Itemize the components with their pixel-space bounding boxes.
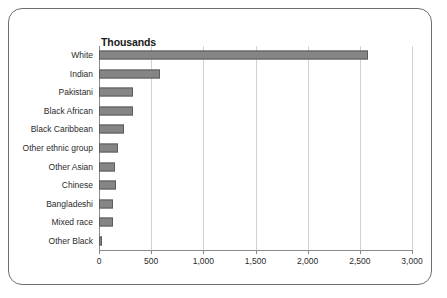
x-axis-tick-label: 0 xyxy=(97,256,102,266)
x-axis-tick-label: 3,000 xyxy=(401,256,422,266)
category-label: Chinese xyxy=(0,180,97,190)
bar[interactable] xyxy=(99,218,113,227)
bar[interactable] xyxy=(99,199,113,208)
bar[interactable] xyxy=(99,162,115,171)
x-axis-tick-label: 500 xyxy=(144,256,158,266)
category-label: Mixed race xyxy=(0,217,97,227)
x-axis-tick-label: 1,500 xyxy=(245,256,266,266)
x-axis-tick-label: 2,500 xyxy=(349,256,370,266)
category-label-row: Black African xyxy=(0,106,97,116)
category-label: Other Asian xyxy=(0,162,97,172)
category-label-row: Pakistani xyxy=(0,87,97,97)
bar[interactable] xyxy=(99,69,160,78)
category-label: Black African xyxy=(0,106,97,116)
category-label-row: Other ethnic group xyxy=(0,143,97,153)
category-label-row: Black Caribbean xyxy=(0,124,97,134)
category-label: Indian xyxy=(0,69,97,79)
bar[interactable] xyxy=(99,144,118,153)
category-label: Black Caribbean xyxy=(0,124,97,134)
category-label-row: Mixed race xyxy=(0,217,97,227)
x-axis-tick xyxy=(256,250,257,254)
gridline xyxy=(203,46,204,250)
category-label-row: Indian xyxy=(0,69,97,79)
category-label: White xyxy=(0,50,97,60)
category-label: Other ethnic group xyxy=(0,143,97,153)
gridline xyxy=(412,46,413,250)
bar[interactable] xyxy=(99,181,116,190)
bar[interactable] xyxy=(99,51,368,60)
gridline xyxy=(308,46,309,250)
bar[interactable] xyxy=(99,125,124,134)
x-axis-tick xyxy=(151,250,152,254)
bar[interactable] xyxy=(99,88,133,97)
category-label: Bangladeshi xyxy=(0,199,97,209)
x-axis-tick xyxy=(99,250,100,254)
x-axis-tick xyxy=(308,250,309,254)
bar[interactable] xyxy=(99,106,133,115)
x-axis-tick-label: 2,000 xyxy=(297,256,318,266)
chart-title: Thousands xyxy=(101,36,156,48)
x-axis-tick-label: 1,000 xyxy=(193,256,214,266)
category-label-row: Bangladeshi xyxy=(0,199,97,209)
category-label-row: Other Black xyxy=(0,236,97,246)
category-label-row: Chinese xyxy=(0,180,97,190)
x-axis-tick xyxy=(360,250,361,254)
category-label: Other Black xyxy=(0,236,97,246)
category-label-row: White xyxy=(0,50,97,60)
category-label-row: Other Asian xyxy=(0,162,97,172)
gridline xyxy=(360,46,361,250)
x-axis-tick xyxy=(412,250,413,254)
gridline xyxy=(256,46,257,250)
x-axis-tick xyxy=(203,250,204,254)
bar[interactable] xyxy=(99,236,102,245)
category-label: Pakistani xyxy=(0,87,97,97)
